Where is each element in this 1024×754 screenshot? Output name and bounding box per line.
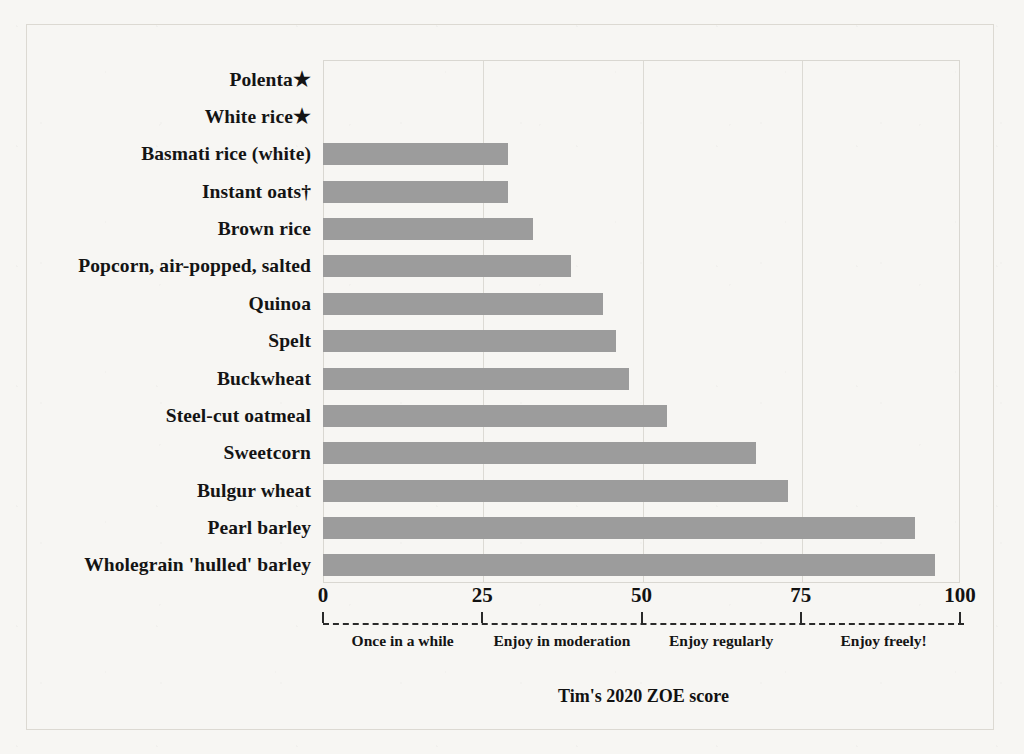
bar: [323, 218, 533, 240]
bar: [323, 368, 629, 390]
bar: [323, 517, 915, 539]
bar: [323, 293, 603, 315]
bar-chart-figure: Polenta★White rice★Basmati rice (white)I…: [0, 0, 1024, 754]
category-label: Instant oats†: [0, 181, 311, 203]
bracket-tick-0: [322, 612, 324, 623]
category-label: Quinoa: [0, 293, 311, 315]
category-label: Steel-cut oatmeal: [0, 405, 311, 427]
band-label: Enjoy freely!: [840, 631, 926, 651]
bar: [323, 255, 571, 277]
category-label: Brown rice: [0, 218, 311, 240]
category-label: Spelt: [0, 330, 311, 352]
category-label: Pearl barley: [0, 517, 311, 539]
category-label: Basmati rice (white): [0, 143, 311, 165]
band-label: Once in a while: [352, 631, 454, 651]
bracket-tick-75: [800, 612, 802, 623]
bar: [323, 405, 667, 427]
bracket-dashed-line: [323, 623, 964, 625]
category-label: Popcorn, air-popped, salted: [0, 255, 311, 277]
category-label: Buckwheat: [0, 368, 311, 390]
bar: [323, 181, 508, 203]
x-tick-label-50: 50: [631, 583, 652, 607]
bar: [323, 330, 616, 352]
category-label: Polenta★: [0, 69, 311, 91]
x-axis-bracket: [323, 612, 964, 626]
x-axis-band-labels: Once in a whileEnjoy in moderationEnjoy …: [323, 631, 964, 657]
bar: [323, 442, 756, 464]
category-axis-labels: Polenta★White rice★Basmati rice (white)I…: [0, 60, 311, 583]
x-axis-title: Tim's 2020 ZOE score: [323, 685, 964, 707]
x-axis-tick-labels: 0255075100: [323, 583, 964, 611]
category-label: Sweetcorn: [0, 442, 311, 464]
x-tick-label-100: 100: [944, 583, 976, 607]
x-tick-label-75: 75: [790, 583, 811, 607]
category-label: Bulgur wheat: [0, 480, 311, 502]
category-label: Wholegrain 'hulled' barley: [0, 554, 311, 576]
x-tick-label-0: 0: [318, 583, 329, 607]
x-tick-label-25: 25: [472, 583, 493, 607]
bracket-tick-100: [959, 612, 961, 623]
category-label: White rice★: [0, 106, 311, 128]
bar: [323, 480, 788, 502]
band-label: Enjoy in moderation: [493, 631, 630, 651]
band-label: Enjoy regularly: [669, 631, 773, 651]
bracket-tick-50: [641, 612, 643, 623]
bracket-tick-25: [481, 612, 483, 623]
bar: [323, 554, 935, 576]
bar: [323, 143, 508, 165]
bars-layer: [323, 60, 960, 583]
